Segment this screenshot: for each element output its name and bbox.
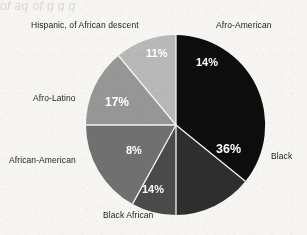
pie-value-black-african: 14%	[142, 184, 164, 195]
pie-label-hispanic: Hispanic, of African descent	[31, 20, 139, 30]
pie-label-black-african: Black African	[103, 210, 153, 220]
pie-chart-svg	[0, 0, 307, 235]
pie-value-hispanic: 11%	[146, 48, 167, 59]
pie-label-black: Black	[271, 151, 292, 161]
pie-value-afro-latino: 17%	[105, 97, 129, 108]
pie-chart: Hispanic, of African descent Afro-Americ…	[0, 0, 307, 235]
pie-value-afro-american: 14%	[196, 57, 218, 68]
pie-label-african-american: African-American	[9, 155, 76, 165]
pie-label-afro-latino: Afro-Latino	[33, 93, 76, 103]
pie-value-black: 36%	[216, 144, 241, 155]
pie-label-afro-american: Afro-American	[216, 20, 272, 30]
pie-value-african-american: 8%	[126, 145, 142, 156]
